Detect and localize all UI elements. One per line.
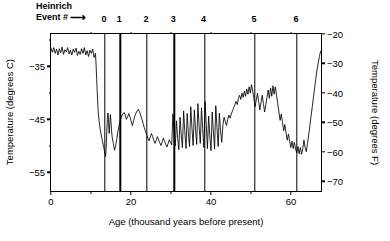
event-label-4: 4 (201, 14, 206, 24)
figure-root: Heinrich Event # ⟶ 0123456 Temperature (… (0, 0, 390, 241)
y-left-tick-label: −55 (29, 167, 45, 178)
y-right-tick (321, 92, 325, 93)
event-label-6: 6 (293, 14, 298, 24)
y-right-tick-label: −20 (327, 29, 343, 40)
x-top-minor-tick (171, 32, 172, 35)
y-right-tick-label: −50 (327, 117, 343, 128)
plot-inner (51, 34, 321, 191)
y-left-tick (47, 172, 51, 173)
event-label-2: 2 (143, 14, 148, 24)
plot-area: −35−45−55 −20−30−40−50−60−70 0204060 (50, 33, 322, 192)
event-label-0: 0 (101, 14, 106, 24)
event-label-3: 3 (171, 14, 176, 24)
x-minor-tick (91, 191, 92, 194)
x-top-minor-tick (211, 32, 212, 35)
x-tick (50, 191, 51, 195)
heinrich-header-line2: Event # (36, 12, 68, 23)
y-right-tick (321, 122, 325, 123)
right-arrow-icon: ⟶ (70, 12, 85, 23)
y-right-tick-label: −40 (327, 87, 343, 98)
y-left-tick (47, 119, 51, 120)
x-tick (210, 191, 211, 195)
heinrich-event-header: Heinrich Event # ⟶ (36, 1, 85, 23)
y-right-tick-label: −70 (327, 176, 343, 187)
x-top-minor-tick (91, 32, 92, 35)
x-minor-tick (251, 191, 252, 194)
y-right-tick (321, 151, 325, 152)
y-left-minor-tick (49, 145, 52, 146)
y-axis-title-left: Temperature (degrees C) (2, 33, 16, 192)
x-tick-label: 40 (206, 196, 217, 207)
y-right-tick (321, 181, 325, 182)
y-right-tick (321, 63, 325, 64)
x-tick-label: 0 (48, 196, 53, 207)
x-top-minor-tick (131, 32, 132, 35)
x-tick-label: 60 (286, 196, 297, 207)
y-left-tick-label: −45 (29, 114, 45, 125)
x-tick (290, 191, 291, 195)
y-left-tick-label: −35 (29, 61, 45, 72)
y-left-minor-tick (49, 39, 52, 40)
event-label-1: 1 (117, 14, 122, 24)
y-left-minor-tick (49, 92, 52, 93)
x-top-minor-tick (291, 32, 292, 35)
y-left-tick (47, 66, 51, 67)
x-minor-tick (171, 191, 172, 194)
x-tick (130, 191, 131, 195)
x-axis-title: Age (thousand years before present) (50, 216, 322, 227)
y-right-tick (321, 33, 325, 34)
y-right-tick-label: −60 (327, 146, 343, 157)
y-right-tick-label: −30 (327, 58, 343, 69)
y-axis-title-right: Temperature (degrees F) (368, 33, 382, 192)
x-top-minor-tick (251, 32, 252, 35)
x-tick-label: 20 (126, 196, 137, 207)
temperature-curve (51, 34, 321, 191)
event-label-5: 5 (251, 14, 256, 24)
